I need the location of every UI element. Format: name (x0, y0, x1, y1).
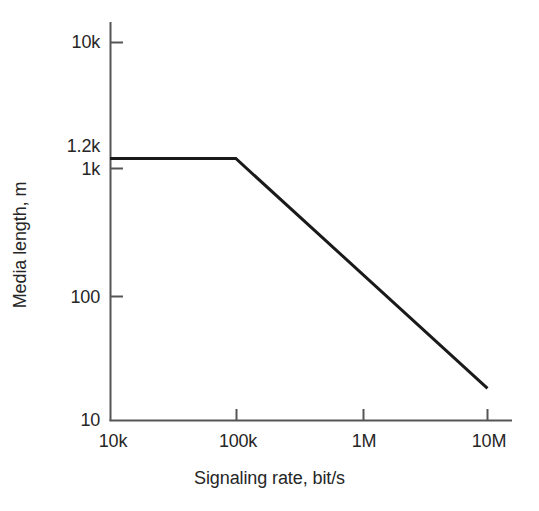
y-tick-label-1k: 1k (38, 160, 100, 178)
plot-canvas (0, 0, 539, 511)
y-tick-label-1200: 1.2k (28, 137, 100, 155)
y-tick-label-10: 10 (38, 411, 100, 429)
x-axis-title: Signaling rate, bit/s (0, 468, 539, 489)
y-tick-label-100: 100 (28, 288, 100, 306)
x-tick-label-1m: 1M (352, 432, 377, 450)
x-tick-label-100k: 100k (219, 432, 257, 450)
chart-figure: 10k 1.2k 1k 100 10 10k 100k 1M 10M Media… (0, 0, 539, 511)
y-axis-title: Media length, m (10, 182, 31, 309)
x-tick-label-10m: 10M (472, 432, 506, 450)
data-line-media-length (110, 159, 488, 389)
y-tick-label-10k: 10k (38, 33, 100, 51)
x-tick-label-10k: 10k (99, 432, 127, 450)
